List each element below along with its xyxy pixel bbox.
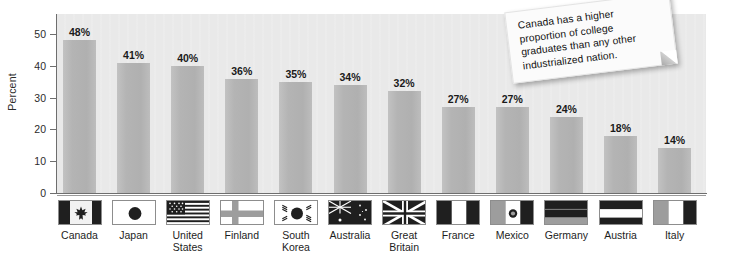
bar [225, 79, 258, 193]
bar-value-label: 34% [325, 72, 375, 83]
flag-image [490, 200, 534, 225]
country-label-line: Korea [263, 242, 329, 254]
callout-note-text: Canada has a higher proportion of colleg… [517, 1, 666, 72]
y-axis-tick-label: 40 [20, 61, 46, 72]
flag-image [382, 200, 426, 225]
bar [171, 66, 204, 193]
flag-canada-icon [58, 200, 102, 225]
flag-image [220, 200, 264, 225]
flag-austria-icon [599, 200, 643, 225]
x-axis-line [56, 193, 707, 194]
y-axis-tick [50, 193, 57, 194]
flag-germany-icon [544, 200, 588, 225]
y-axis-line [56, 14, 57, 194]
bar [658, 148, 691, 193]
y-axis-tick [50, 66, 57, 67]
flag-image [653, 200, 697, 225]
flag-image [599, 200, 643, 225]
bar-value-label: 27% [487, 94, 537, 105]
bar-value-label: 14% [650, 135, 700, 146]
country-label-line: States [155, 242, 221, 254]
flag-mexico-icon [490, 200, 534, 225]
country-label: Italy [642, 230, 708, 242]
bar-value-label: 18% [596, 123, 646, 134]
bar [550, 117, 583, 193]
flag-image [436, 200, 480, 225]
flag-japan-icon [112, 200, 156, 225]
bar [496, 107, 529, 193]
bar-value-label: 48% [55, 27, 105, 38]
y-axis-tick-label: 0 [20, 188, 46, 199]
bar [334, 85, 367, 193]
country-label-line: Italy [642, 230, 708, 242]
bar-value-label: 35% [271, 69, 321, 80]
flag-image [328, 200, 372, 225]
flag-strip [57, 195, 706, 229]
y-axis-tick-label: 20 [20, 124, 46, 135]
bar-value-label: 40% [163, 53, 213, 64]
bar-value-label: 36% [217, 66, 267, 77]
bar [442, 107, 475, 193]
flag-australia-icon [328, 200, 372, 225]
flag-image [112, 200, 156, 225]
bar-value-label: 41% [109, 50, 159, 61]
bar [63, 40, 96, 193]
bar-value-label: 24% [541, 104, 591, 115]
bar [279, 82, 312, 193]
y-axis-tick [50, 129, 57, 130]
flag-france-icon [436, 200, 480, 225]
bar-chart-figure: 01020304050 48%41%40%36%35%34%32%27%27%2… [0, 0, 730, 264]
page-fold-corner [660, 50, 678, 66]
flag-image [274, 200, 318, 225]
y-axis-tick [50, 161, 57, 162]
y-axis-tick-label: 30 [20, 92, 46, 103]
flag-italy-icon [653, 200, 697, 225]
flag-united-states-icon [166, 200, 210, 225]
flag-great-britain-icon [382, 200, 426, 225]
bar [604, 136, 637, 193]
y-axis-tick-label: 10 [20, 156, 46, 167]
bar [388, 91, 421, 193]
y-axis-tick [50, 98, 57, 99]
flag-image [166, 200, 210, 225]
flag-south-korea-icon [274, 200, 318, 225]
y-axis-tick-label: 50 [20, 29, 46, 40]
bar-value-label: 32% [379, 78, 429, 89]
country-label-line: Britain [371, 242, 437, 254]
flag-finland-icon [220, 200, 264, 225]
bar [117, 63, 150, 193]
y-axis-title: Percent [6, 61, 18, 123]
bar-value-label: 27% [433, 94, 483, 105]
flag-image [544, 200, 588, 225]
flag-image [58, 200, 102, 225]
